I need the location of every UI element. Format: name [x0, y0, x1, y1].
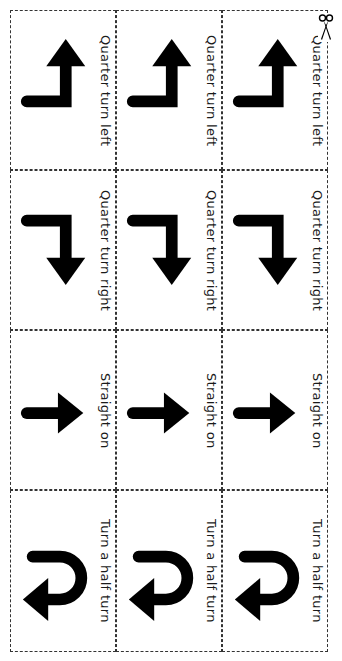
straight-on-arrow-icon [17, 369, 95, 459]
quarter-turn-left-arrow-icon [229, 33, 307, 123]
direction-card: Quarter turn right [10, 170, 116, 330]
straight-on-arrow-icon [123, 369, 201, 459]
direction-card: Quarter turn left [10, 10, 116, 170]
quarter-turn-right-arrow-icon [17, 201, 95, 291]
scissors-icon [318, 14, 334, 42]
quarter-turn-left-arrow-icon [17, 33, 95, 123]
direction-card: Turn a half turn [116, 490, 222, 652]
quarter-turn-right-arrow-icon [123, 201, 201, 291]
direction-card: Straight on [222, 330, 328, 490]
card-label: Quarter turn right [307, 171, 327, 331]
direction-card: Quarter turn right [222, 170, 328, 330]
half-turn-arrow-icon [229, 535, 307, 625]
half-turn-arrow-icon [17, 535, 95, 625]
direction-card: Turn a half turn [222, 490, 328, 652]
card-label: Straight on [307, 331, 327, 491]
straight-on-arrow-icon [229, 369, 307, 459]
direction-card: Turn a half turn [10, 490, 116, 652]
half-turn-arrow-icon [123, 535, 201, 625]
direction-card: Quarter turn right [116, 170, 222, 330]
direction-card: Straight on [10, 330, 116, 490]
direction-card: Quarter turn left [222, 10, 328, 170]
direction-card-sheet: Quarter turn leftQuarter turn leftQuarte… [10, 10, 328, 652]
card-label: Quarter turn right [95, 171, 115, 331]
card-label: Turn a half turn [307, 491, 327, 651]
card-label: Turn a half turn [95, 491, 115, 651]
card-label: Quarter turn left [201, 11, 221, 171]
card-label: Straight on [95, 331, 115, 491]
card-label: Straight on [201, 331, 221, 491]
direction-card: Quarter turn left [116, 10, 222, 170]
quarter-turn-left-arrow-icon [123, 33, 201, 123]
card-label: Turn a half turn [201, 491, 221, 651]
direction-card: Straight on [116, 330, 222, 490]
card-label: Quarter turn right [201, 171, 221, 331]
card-label: Quarter turn left [95, 11, 115, 171]
quarter-turn-right-arrow-icon [229, 201, 307, 291]
